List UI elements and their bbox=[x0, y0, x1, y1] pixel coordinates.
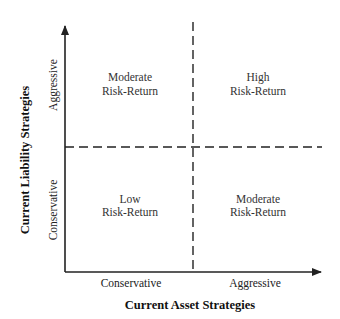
quadrant-bottom-left-line2: Risk-Return bbox=[102, 206, 158, 218]
quadrant-top-right: High Risk-Return bbox=[230, 71, 286, 97]
quadrant-top-left-line1: Moderate bbox=[108, 71, 152, 83]
y-axis-low-label: Conservative bbox=[47, 180, 59, 241]
x-axis-high-label: Aggressive bbox=[229, 277, 281, 290]
quadrant-bottom-right-line2: Risk-Return bbox=[230, 206, 286, 218]
x-axis-title: Current Asset Strategies bbox=[125, 298, 255, 312]
quadrant-top-left: Moderate Risk-Return bbox=[102, 71, 158, 97]
x-axis-low-label: Conservative bbox=[101, 277, 162, 289]
quadrant-bottom-right: Moderate Risk-Return bbox=[230, 193, 286, 218]
quadrant-bottom-right-line1: Moderate bbox=[236, 193, 280, 205]
quadrant-top-right-line2: Risk-Return bbox=[230, 85, 286, 97]
quadrant-top-right-line1: High bbox=[247, 71, 270, 84]
y-axis-high-label: Aggressive bbox=[47, 59, 60, 111]
quadrant-bottom-left-line1: Low bbox=[119, 193, 141, 205]
y-axis-title: Current Liability Strategies bbox=[18, 86, 32, 234]
quadrant-top-left-line2: Risk-Return bbox=[102, 85, 158, 97]
quadrant-bottom-left: Low Risk-Return bbox=[102, 193, 158, 218]
quadrant-diagram: Moderate Risk-Return High Risk-Return Lo… bbox=[0, 0, 340, 319]
